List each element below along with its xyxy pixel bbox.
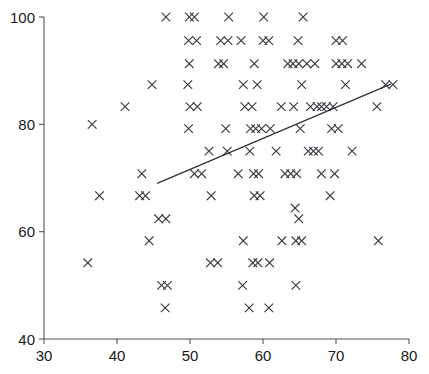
data-point-markers xyxy=(84,13,398,312)
data-point xyxy=(256,191,265,200)
data-point xyxy=(254,258,263,267)
data-point xyxy=(326,191,335,200)
data-point xyxy=(148,80,157,89)
data-point xyxy=(311,59,320,68)
data-point xyxy=(294,36,303,45)
data-point xyxy=(216,36,225,45)
data-point xyxy=(334,124,343,133)
data-point xyxy=(250,59,259,68)
data-point xyxy=(309,147,318,156)
data-point xyxy=(197,169,206,178)
x-tick-label: 40 xyxy=(109,347,126,364)
data-point xyxy=(299,13,308,22)
data-point xyxy=(206,258,215,267)
data-point xyxy=(292,281,301,290)
data-point xyxy=(257,124,266,133)
data-point xyxy=(161,304,170,313)
data-point xyxy=(239,80,248,89)
y-axis: 406080100 xyxy=(10,9,44,348)
data-point xyxy=(214,59,223,68)
x-tick-label: 70 xyxy=(328,347,345,364)
data-point xyxy=(162,13,171,22)
data-point xyxy=(88,120,97,129)
regression-line-segment xyxy=(157,84,391,183)
data-point xyxy=(272,147,281,156)
data-point xyxy=(248,102,257,111)
data-point xyxy=(193,102,202,111)
data-point xyxy=(221,124,230,133)
data-point xyxy=(253,80,262,89)
data-point xyxy=(303,59,312,68)
data-point xyxy=(145,236,154,245)
data-point xyxy=(313,102,322,111)
data-point xyxy=(304,147,313,156)
data-point xyxy=(237,36,246,45)
data-point xyxy=(163,281,172,290)
data-point xyxy=(348,147,357,156)
plot-canvas: 406080100 304050607080 xyxy=(0,0,429,374)
data-point xyxy=(373,102,382,111)
data-point xyxy=(297,236,306,245)
data-point xyxy=(254,169,263,178)
data-point xyxy=(185,13,194,22)
data-point xyxy=(297,80,306,89)
data-point xyxy=(341,80,350,89)
data-point xyxy=(184,80,193,89)
data-point xyxy=(246,124,255,133)
data-point xyxy=(224,13,233,22)
regression-line xyxy=(157,84,391,183)
data-point xyxy=(246,147,255,156)
data-point xyxy=(284,59,293,68)
data-point xyxy=(245,304,254,313)
data-point xyxy=(259,13,268,22)
data-point xyxy=(190,13,199,22)
data-point xyxy=(265,304,274,313)
data-point xyxy=(219,59,228,68)
data-point xyxy=(213,258,222,267)
data-point xyxy=(291,204,300,213)
scatter-plot-figure: 406080100 304050607080 xyxy=(0,0,429,374)
data-point xyxy=(289,102,298,111)
data-point xyxy=(207,191,216,200)
x-tick-label: 50 xyxy=(182,347,199,364)
x-axis: 304050607080 xyxy=(36,339,418,364)
data-point xyxy=(265,36,274,45)
data-point xyxy=(238,281,247,290)
data-point xyxy=(294,214,303,223)
data-point xyxy=(296,124,305,133)
data-point xyxy=(317,102,326,111)
x-tick-label: 30 xyxy=(36,347,53,364)
data-point xyxy=(314,147,323,156)
data-point xyxy=(186,102,195,111)
data-point xyxy=(239,236,248,245)
data-point xyxy=(330,169,339,178)
x-tick-label: 80 xyxy=(401,347,418,364)
data-point xyxy=(154,214,163,223)
y-tick-label: 60 xyxy=(18,223,35,240)
data-point xyxy=(240,102,249,111)
data-point xyxy=(338,36,347,45)
y-tick-label: 100 xyxy=(10,9,35,26)
data-point xyxy=(190,169,199,178)
data-point xyxy=(184,36,193,45)
data-point xyxy=(185,59,194,68)
data-point xyxy=(205,147,214,156)
data-point xyxy=(277,102,286,111)
data-point xyxy=(278,236,287,245)
data-point xyxy=(234,169,243,178)
data-point xyxy=(224,36,233,45)
x-tick-label: 60 xyxy=(255,347,272,364)
data-point xyxy=(357,59,366,68)
data-point xyxy=(317,169,326,178)
data-point xyxy=(121,102,130,111)
data-point xyxy=(162,214,171,223)
data-point xyxy=(84,258,93,267)
y-tick-label: 40 xyxy=(18,331,35,348)
y-tick-label: 80 xyxy=(18,116,35,133)
data-point xyxy=(95,191,104,200)
data-point xyxy=(192,36,201,45)
data-point xyxy=(343,59,352,68)
data-point xyxy=(294,59,303,68)
data-point xyxy=(374,236,383,245)
data-point xyxy=(138,169,147,178)
